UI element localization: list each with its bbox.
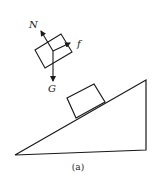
friction-force-label: f <box>76 38 83 49</box>
incline-diagram <box>15 80 146 155</box>
incline-block <box>67 84 105 118</box>
friction-force-arrow <box>53 43 70 51</box>
physics-figure: N f G (a) <box>0 0 157 179</box>
gravity-force-label: G <box>48 83 56 94</box>
normal-force-label: N <box>28 19 39 30</box>
figure-caption: (a) <box>72 162 84 172</box>
free-body-diagram: N f G <box>28 19 83 94</box>
normal-force-arrow <box>41 31 53 51</box>
